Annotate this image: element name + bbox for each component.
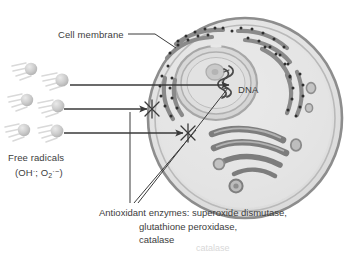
free-radicals-formula: (OH·; O2·−) xyxy=(15,166,63,182)
caption-line-3: catalase xyxy=(99,233,287,247)
caption-line-1: Antioxidant enzymes: superoxide dismutas… xyxy=(99,207,287,218)
caption-line-2: glutathione peroxidase, xyxy=(99,220,287,234)
cell-membrane-label: Cell membrane xyxy=(58,29,124,41)
leader-cell-membrane-angled xyxy=(155,34,176,48)
vesicle-core xyxy=(233,183,238,188)
formula-suffix: ) xyxy=(59,167,62,178)
antioxidant-enzymes-caption: Antioxidant enzymes: superoxide dismutas… xyxy=(99,206,287,247)
free-radicals-group xyxy=(5,63,69,142)
free-radical xyxy=(12,63,37,80)
bottom-cut-off-fragment: catalase xyxy=(196,243,230,253)
dna-label: DNA xyxy=(238,84,258,96)
nucleolus-core xyxy=(212,69,219,75)
free-radical xyxy=(5,124,30,141)
formula-mid: ; O xyxy=(35,167,48,178)
free-radical-antioxidant-diagram: Cell membrane DNA Free radicals (OH·; O2… xyxy=(0,0,345,254)
formula-prefix: (OH xyxy=(15,167,33,178)
cytoplasm xyxy=(158,28,332,208)
vesicle xyxy=(306,83,315,94)
free-radical xyxy=(8,94,33,111)
free-radicals-label: Free radicals xyxy=(8,152,64,164)
free-radical xyxy=(38,125,63,142)
vesicle xyxy=(291,139,301,151)
vesicle xyxy=(214,159,225,170)
free-radical xyxy=(38,100,64,117)
vesicle xyxy=(305,104,312,112)
free-radical xyxy=(42,73,69,90)
nucleus xyxy=(175,46,257,120)
